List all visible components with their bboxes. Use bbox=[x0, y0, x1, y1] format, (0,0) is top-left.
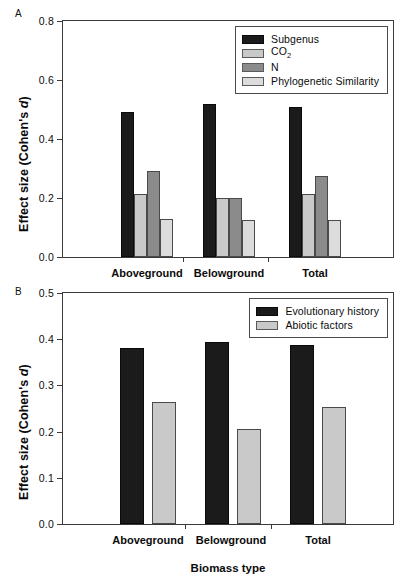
panel-a-ytick-0 bbox=[57, 257, 63, 258]
bar-abiotic-factors-belowground bbox=[237, 429, 261, 524]
panel-b-ytick-label-4: 0.4 bbox=[39, 333, 54, 345]
panel-b-ytick-label-0: 0.0 bbox=[39, 518, 54, 530]
panel-a-ytick-4 bbox=[57, 21, 63, 22]
panel-b-ytick-4 bbox=[57, 339, 63, 340]
bar-co2-belowground bbox=[216, 198, 229, 257]
bar-subgenus-belowground bbox=[203, 104, 216, 257]
panel-b-y-axis-title: Effect size (Cohen's d) bbox=[17, 364, 31, 500]
bar-abiotic-factors-aboveground bbox=[152, 402, 176, 524]
legend-swatch-evolutionary-history bbox=[256, 307, 278, 316]
panel-b: B 0.0 0.1 0.2 0.3 0.4 0.5 bbox=[0, 285, 404, 582]
panel-b-xtick-label-belowground: Belowground bbox=[196, 534, 266, 546]
legend-label-phylogenetic-similarity: Phylogenetic Similarity bbox=[271, 75, 379, 87]
legend-swatch-phylogenetic-similarity bbox=[242, 77, 264, 86]
panel-b-ytick-5 bbox=[57, 293, 63, 294]
panel-a-ytick-3 bbox=[57, 80, 63, 81]
panel-a-ytick-label-1: 0.2 bbox=[39, 192, 54, 204]
legend-swatch-n bbox=[242, 63, 264, 72]
bar-n-total bbox=[315, 176, 328, 257]
legend-item-n: N bbox=[242, 60, 379, 74]
legend-swatch-subgenus bbox=[242, 35, 264, 44]
bar-n-belowground bbox=[229, 198, 242, 257]
panel-a-y-axis-title-prefix: Effect size (Cohen's bbox=[17, 108, 31, 232]
panel-b-xtick-0 bbox=[185, 524, 186, 529]
bar-co2-total bbox=[302, 194, 315, 257]
legend-item-subgenus: Subgenus bbox=[242, 32, 379, 46]
legend-label-co2: CO2 bbox=[271, 45, 291, 60]
panel-b-x-axis-title: Biomass type bbox=[191, 562, 266, 574]
panel-a-ytick-2 bbox=[57, 139, 63, 140]
figure: A Effect size (Cohen's d) 0.0 0.2 0.4 0.… bbox=[0, 0, 404, 582]
bar-phylogenetic-similarity-total bbox=[328, 220, 341, 257]
legend-label-n: N bbox=[271, 61, 279, 73]
bar-evolutionary-history-total bbox=[290, 345, 314, 524]
panel-a-xtick-0 bbox=[183, 257, 184, 262]
bar-group-aboveground-a bbox=[111, 21, 183, 257]
bar-n-aboveground bbox=[147, 171, 160, 257]
panel-a-ytick-label-3: 0.6 bbox=[39, 74, 54, 86]
legend-item-phylogenetic-similarity: Phylogenetic Similarity bbox=[242, 74, 379, 88]
panel-a-y-axis-title-suffix: ) bbox=[17, 96, 31, 100]
panel-b-ytick-2 bbox=[57, 432, 63, 433]
legend-item-co2: CO2 bbox=[242, 46, 379, 60]
panel-b-ytick-1 bbox=[57, 478, 63, 479]
bar-abiotic-factors-total bbox=[322, 407, 346, 524]
bar-evolutionary-history-belowground bbox=[205, 342, 229, 524]
legend-label-abiotic-factors: Abiotic factors bbox=[285, 319, 352, 331]
panel-a-xtick-1 bbox=[268, 257, 269, 262]
bar-subgenus-total bbox=[289, 107, 302, 257]
panel-b-letter: B bbox=[15, 286, 22, 297]
panel-b-ytick-label-5: 0.5 bbox=[39, 287, 54, 299]
panel-b-ytick-label-1: 0.1 bbox=[39, 472, 54, 484]
bar-phylogenetic-similarity-belowground bbox=[242, 220, 255, 257]
panel-b-ytick-0 bbox=[57, 524, 63, 525]
bar-phylogenetic-similarity-aboveground bbox=[160, 219, 173, 257]
panel-a-letter: A bbox=[15, 8, 22, 19]
bar-subgenus-aboveground bbox=[121, 112, 134, 257]
panel-b-y-axis-title-suffix: ) bbox=[17, 364, 31, 368]
panel-a-ytick-label-2: 0.4 bbox=[39, 133, 54, 145]
panel-b-xtick-label-total: Total bbox=[305, 534, 330, 546]
legend-swatch-abiotic-factors bbox=[256, 321, 278, 330]
bar-co2-aboveground bbox=[134, 194, 147, 257]
panel-b-y-axis-title-prefix: Effect size (Cohen's bbox=[17, 376, 31, 500]
panel-b-ytick-label-2: 0.2 bbox=[39, 426, 54, 438]
panel-a-xtick-label-belowground: Belowground bbox=[194, 267, 264, 279]
panel-a-y-axis-title-italic: d bbox=[17, 100, 31, 108]
panel-a-ytick-label-0: 0.0 bbox=[39, 251, 54, 263]
bar-group-aboveground-b bbox=[113, 293, 183, 524]
panel-a-legend: Subgenus CO2 N Phylogenetic Similarity bbox=[235, 26, 388, 94]
panel-a-y-axis-title: Effect size (Cohen's d) bbox=[17, 96, 31, 232]
bar-evolutionary-history-aboveground bbox=[120, 348, 144, 524]
legend-item-evolutionary-history: Evolutionary history bbox=[256, 304, 379, 318]
panel-b-legend: Evolutionary history Abiotic factors bbox=[249, 298, 388, 338]
panel-a-xtick-label-aboveground: Aboveground bbox=[111, 267, 183, 279]
panel-b-ytick-label-3: 0.3 bbox=[39, 379, 54, 391]
legend-label-evolutionary-history: Evolutionary history bbox=[285, 305, 379, 317]
legend-label-subgenus: Subgenus bbox=[271, 33, 319, 45]
panel-a-ytick-1 bbox=[57, 198, 63, 199]
panel-b-xtick-1 bbox=[271, 524, 272, 529]
panel-a: A Effect size (Cohen's d) 0.0 0.2 0.4 0.… bbox=[0, 0, 404, 290]
panel-a-ytick-label-4: 0.8 bbox=[39, 15, 54, 27]
panel-a-xtick-label-total: Total bbox=[302, 267, 327, 279]
panel-b-xtick-label-aboveground: Aboveground bbox=[112, 534, 184, 546]
panel-b-plot-area: 0.0 0.1 0.2 0.3 0.4 0.5 Aboveground bbox=[62, 292, 394, 525]
panel-a-plot-area: 0.0 0.2 0.4 0.6 0.8 bbox=[62, 20, 394, 258]
panel-b-y-axis-title-italic: d bbox=[17, 368, 31, 376]
legend-swatch-co2 bbox=[242, 49, 264, 58]
legend-item-abiotic-factors: Abiotic factors bbox=[256, 318, 379, 332]
panel-b-ytick-3 bbox=[57, 385, 63, 386]
